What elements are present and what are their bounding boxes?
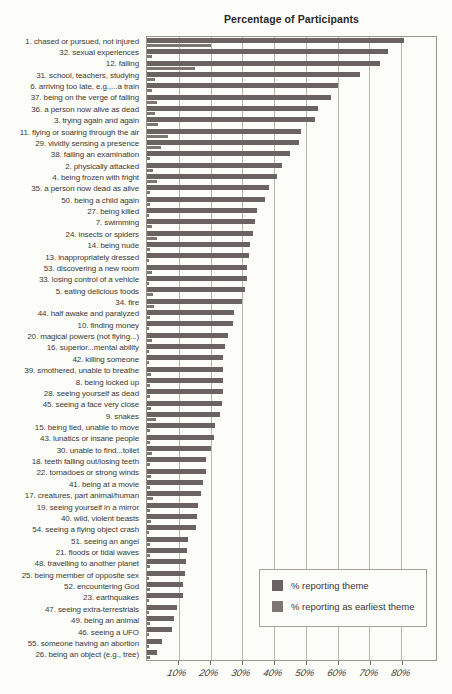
earliest-theme-bar bbox=[147, 543, 150, 546]
x-axis-tickmark bbox=[178, 661, 179, 665]
earliest-theme-bar bbox=[147, 565, 150, 568]
theme-row bbox=[147, 490, 436, 501]
plot-area bbox=[146, 36, 437, 661]
category-label: 46. seeing a UFO bbox=[0, 627, 144, 638]
earliest-theme-bar bbox=[147, 599, 149, 602]
theme-row bbox=[147, 94, 436, 105]
x-axis-tickmark bbox=[306, 661, 307, 665]
reporting-theme-bar bbox=[147, 457, 206, 462]
theme-row bbox=[147, 501, 436, 512]
reporting-theme-bar bbox=[147, 491, 201, 496]
reporting-theme-bar bbox=[147, 582, 183, 587]
reporting-theme-bar bbox=[147, 197, 265, 202]
category-label: 35. a person now dead as alive bbox=[0, 184, 144, 195]
earliest-theme-bar bbox=[147, 339, 152, 342]
earliest-theme-bar bbox=[147, 55, 152, 58]
reporting-theme-bar bbox=[147, 367, 223, 372]
earliest-theme-bar bbox=[147, 350, 149, 353]
category-label: 23. earthquakes bbox=[0, 593, 144, 604]
category-label: 34. fire bbox=[0, 297, 144, 308]
earliest-theme-bar bbox=[147, 191, 150, 194]
earliest-theme-bar bbox=[147, 67, 195, 70]
x-tick-label: 80% bbox=[390, 667, 411, 678]
theme-row bbox=[147, 626, 436, 637]
earliest-theme-bar bbox=[147, 645, 149, 648]
reporting-theme-bar bbox=[147, 253, 249, 258]
theme-row bbox=[147, 207, 436, 218]
category-label: 43. lunatics or insane people bbox=[0, 434, 144, 445]
theme-row bbox=[147, 433, 436, 444]
theme-row bbox=[147, 535, 436, 546]
theme-row bbox=[147, 524, 436, 535]
earliest-theme-bar bbox=[147, 497, 153, 500]
theme-row bbox=[147, 309, 436, 320]
theme-row bbox=[147, 150, 436, 161]
reporting-theme-bar bbox=[147, 537, 188, 542]
reporting-theme-bar bbox=[147, 627, 172, 632]
theme-row bbox=[147, 116, 436, 127]
category-label: 47. seeing extra-terrestrials bbox=[0, 604, 144, 615]
reporting-theme-bar bbox=[147, 231, 253, 236]
category-label: 22. tornadoes or strong winds bbox=[0, 468, 144, 479]
x-tick-label: 30% bbox=[230, 667, 251, 678]
reporting-theme-bar bbox=[147, 219, 255, 224]
reporting-theme-bar bbox=[147, 355, 223, 360]
theme-row bbox=[147, 252, 436, 263]
category-label: 37. being on the verge of falling bbox=[0, 93, 144, 104]
theme-row bbox=[147, 354, 436, 365]
x-axis-tickmark bbox=[210, 661, 211, 665]
chart-title: Percentage of Participants bbox=[146, 13, 437, 25]
reporting-theme-bar bbox=[147, 49, 388, 54]
earliest-theme-bar bbox=[147, 463, 150, 466]
category-label: 49. being an animal bbox=[0, 616, 144, 627]
earliest-theme-bar bbox=[147, 123, 158, 126]
earliest-theme-bar bbox=[147, 327, 149, 330]
earliest-theme-bar bbox=[147, 486, 150, 489]
reporting-theme-bar bbox=[147, 639, 162, 644]
category-label: 38. failing an examination bbox=[0, 150, 144, 161]
theme-row bbox=[147, 196, 436, 207]
category-label: 44. half awake and paralyzed bbox=[0, 309, 144, 320]
category-label: 33. losing control of a vehicle bbox=[0, 275, 144, 286]
theme-row bbox=[147, 411, 436, 422]
reporting-theme-bar bbox=[147, 593, 183, 598]
earliest-theme-bar bbox=[147, 225, 152, 228]
category-label: 25. being member of opposite sex bbox=[0, 570, 144, 581]
reporting-theme-bar bbox=[147, 163, 282, 168]
category-label: 19. seeing yourself in a mirror bbox=[0, 502, 144, 513]
x-axis-tickmark bbox=[242, 661, 243, 665]
x-tick-label: 60% bbox=[326, 667, 347, 678]
category-label: 21. floods or tidal waves bbox=[0, 547, 144, 558]
reporting-theme-bar bbox=[147, 503, 198, 508]
reporting-theme-bar bbox=[147, 446, 211, 451]
reporting-theme-bar bbox=[147, 389, 223, 394]
category-label: 31. school, teachers, studying bbox=[0, 70, 144, 81]
x-axis-tickmark bbox=[338, 661, 339, 665]
x-axis-tickmark bbox=[402, 661, 403, 665]
x-tick-label: 10% bbox=[166, 667, 187, 678]
reporting-theme-bar bbox=[147, 287, 245, 292]
category-label: 51. seeing an angel bbox=[0, 536, 144, 547]
reporting-theme-bar bbox=[147, 95, 331, 100]
reporting-theme-bar bbox=[147, 61, 380, 66]
category-label: 7. swimming bbox=[0, 218, 144, 229]
category-label: 50. being a child again bbox=[0, 195, 144, 206]
theme-row bbox=[147, 37, 436, 48]
theme-row bbox=[147, 60, 436, 71]
reporting-theme-bar bbox=[147, 299, 242, 304]
earliest-theme-bar bbox=[147, 237, 157, 240]
x-tick-label: 50% bbox=[294, 667, 315, 678]
category-label: 48. travelling to another planet bbox=[0, 559, 144, 570]
reporting-theme-bar bbox=[147, 616, 174, 621]
reporting-theme-bar bbox=[147, 185, 269, 190]
theme-row bbox=[147, 286, 436, 297]
reporting-theme-bar bbox=[147, 525, 196, 530]
earliest-theme-bar bbox=[147, 316, 150, 319]
earliest-theme-bar bbox=[147, 293, 153, 296]
category-axis: 1. chased or pursued, not injured32. sex… bbox=[0, 36, 144, 661]
reporting-theme-bar bbox=[147, 333, 228, 338]
x-axis-tickmark bbox=[274, 661, 275, 665]
theme-row bbox=[147, 162, 436, 173]
category-label: 55. someone having an abortion bbox=[0, 638, 144, 649]
earliest-theme-bar bbox=[147, 384, 150, 387]
